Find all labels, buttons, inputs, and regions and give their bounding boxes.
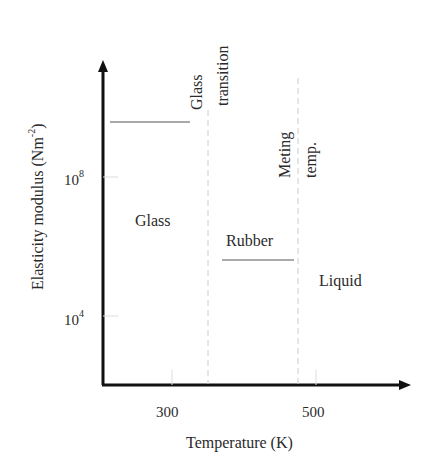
region-liquid: Liquid [319,272,362,290]
y-axis-label-text: Elasticity modulus (Nm [29,137,46,290]
glass-transition-label-line1: Glass [188,74,206,110]
glass-transition-label-line2: transition [214,46,232,106]
tick-base: 10 [64,172,79,188]
melting-temp-label-line1: Meting [276,132,294,178]
x-axis-arrow-icon [399,380,411,390]
region-rubber: Rubber [226,232,273,250]
y-tick-label-1e8: 108 [64,170,84,189]
y-tick-label-1e4: 104 [64,310,84,329]
x-tick-label-300: 300 [156,404,179,421]
tick-base: 10 [64,312,79,328]
x-axis-label: Temperature (K) [186,434,293,452]
y-axis-arrow-icon [98,60,108,72]
tick-exp: 4 [79,308,84,319]
tick-exp: 8 [79,168,84,179]
melting-temp-label-line2: temp. [302,142,320,178]
y-axis-label: Elasticity modulus (Nm-2) [28,123,47,290]
x-tick-label-500: 500 [302,404,325,421]
y-axis-label-exp: -2 [26,129,37,137]
region-glass: Glass [135,212,171,230]
y-axis-label-close: ) [29,123,46,128]
